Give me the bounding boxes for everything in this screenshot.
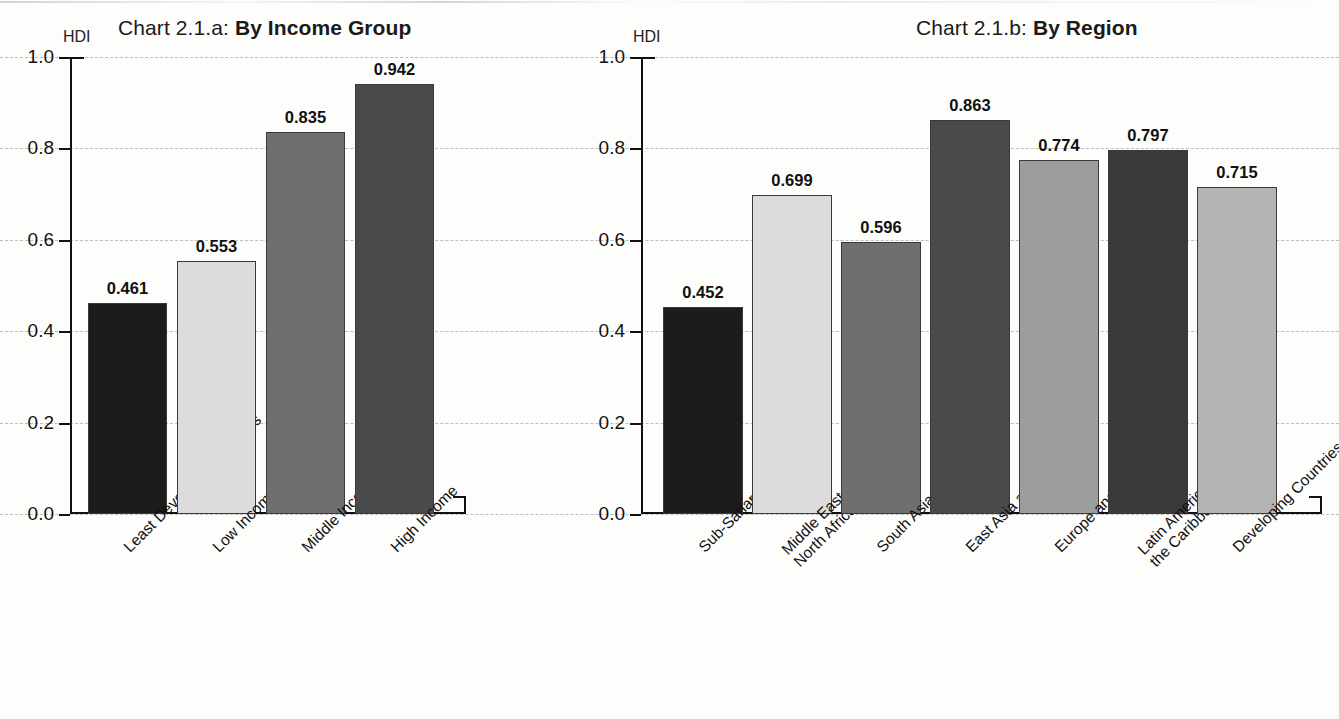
chart-b-title: Chart 2.1.b: By Region — [916, 16, 1138, 40]
x-axis-category-label: Developing Countries — [1229, 543, 1242, 556]
x-axis-category-label: Middle East and North Africa — [778, 545, 803, 570]
y-axis-tick — [59, 423, 70, 425]
bar — [88, 303, 167, 514]
x-axis-category-label: High Income — [387, 543, 400, 556]
bar-value-label: 0.942 — [374, 60, 415, 79]
bar-value-label: 0.797 — [1127, 126, 1168, 145]
x-axis-category-label: Low Income — [209, 543, 222, 556]
chart-b-title-main: By Region — [1033, 16, 1138, 39]
figure-page: Chart 2.1.a: By Income Group HDI 0.00.20… — [0, 0, 1339, 719]
y-axis-tick — [630, 148, 641, 150]
bar — [177, 261, 256, 514]
y-axis-tick-label: 0.8 — [28, 137, 54, 159]
y-axis-tick — [59, 148, 70, 150]
y-axis-tick-label: 0.0 — [599, 503, 625, 525]
chart-a-axis-unit: HDI — [63, 28, 91, 46]
y-axis-tick — [630, 514, 641, 516]
y-axis-tick-label: 0.2 — [599, 412, 625, 434]
y-axis-tick — [630, 331, 641, 333]
x-axis-category-label: South Asia — [873, 543, 886, 556]
x-axis-category-label: Least Developed Countries — [120, 543, 133, 556]
chart-b-axis-unit: HDI — [633, 28, 661, 46]
y-axis-tick — [59, 240, 70, 242]
bar — [355, 84, 434, 514]
chart-b-axis-right-cap — [1320, 498, 1322, 514]
x-axis-category-label: Europe and Central Asia — [1051, 543, 1064, 556]
bar — [1019, 160, 1099, 514]
chart-a-title-prefix: Chart 2.1.a: — [118, 16, 229, 39]
bar — [930, 120, 1010, 514]
x-axis-category-label: Sub-Saharan Africa — [695, 543, 708, 556]
x-axis-category-label: Latin America and the Caribbean — [1134, 545, 1159, 570]
chart-a-title-main: By Income Group — [235, 16, 412, 39]
chart-b-y-axis — [641, 57, 643, 514]
x-axis-category-label: East Asia and the Pacific — [962, 543, 975, 556]
y-axis-tick-label: 0.4 — [28, 320, 54, 342]
bar — [1108, 150, 1188, 514]
bar-value-label: 0.452 — [682, 283, 723, 302]
chart-panel-income-group: Chart 2.1.a: By Income Group HDI 0.00.20… — [0, 0, 600, 719]
y-axis-tick — [630, 240, 641, 242]
y-axis-tick — [630, 57, 641, 59]
bar-value-label: 0.553 — [196, 237, 237, 256]
y-axis-tick — [59, 514, 70, 516]
bar-value-label: 0.596 — [860, 218, 901, 237]
y-axis-tick — [59, 331, 70, 333]
y-axis-tick-label: 1.0 — [599, 46, 625, 68]
y-axis-tick — [59, 57, 70, 59]
bar — [841, 242, 921, 514]
bar — [752, 195, 832, 514]
y-axis-tick-label: 0.2 — [28, 412, 54, 434]
bar-value-label: 0.863 — [949, 96, 990, 115]
chart-a-plot-area: 0.00.20.40.60.81.00.461Least Developed C… — [70, 57, 466, 514]
chart-b-axis-top-cap — [641, 57, 655, 59]
chart-b-axis-right-lip — [1309, 496, 1322, 498]
chart-a-axis-right-cap — [464, 498, 466, 514]
bar — [1197, 187, 1277, 514]
y-axis-tick-label: 0.4 — [599, 320, 625, 342]
bar-value-label: 0.774 — [1038, 136, 1079, 155]
y-axis-tick — [630, 423, 641, 425]
chart-a-y-axis — [70, 57, 72, 514]
bar-value-label: 0.715 — [1216, 163, 1257, 182]
bar-value-label: 0.835 — [285, 108, 326, 127]
bar-value-label: 0.699 — [771, 171, 812, 190]
chart-b-plot-area: 0.00.20.40.60.81.00.452Sub-Saharan Afric… — [641, 57, 1322, 514]
chart-a-title: Chart 2.1.a: By Income Group — [118, 16, 411, 40]
x-axis-category-label: Middle Income — [298, 543, 311, 556]
bar — [663, 307, 743, 514]
bar — [266, 132, 345, 514]
chart-b-title-prefix: Chart 2.1.b: — [916, 16, 1027, 39]
y-axis-tick-label: 0.0 — [28, 503, 54, 525]
chart-panel-region: Chart 2.1.b: By Region HDI 0.00.20.40.60… — [600, 0, 1339, 719]
y-axis-tick-label: 0.8 — [599, 137, 625, 159]
y-axis-tick-label: 0.6 — [28, 229, 54, 251]
bar-value-label: 0.461 — [107, 279, 148, 298]
y-axis-tick-label: 1.0 — [28, 46, 54, 68]
y-axis-tick-label: 0.6 — [599, 229, 625, 251]
chart-a-axis-top-cap — [70, 57, 84, 59]
